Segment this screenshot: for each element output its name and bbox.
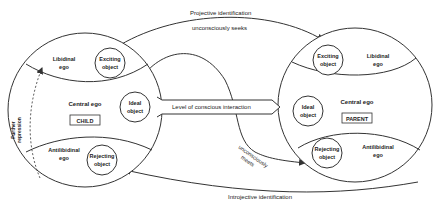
parent-rejecting-object	[312, 138, 342, 168]
conscious-interaction-label: Level of conscious interaction	[172, 104, 251, 110]
parent-rejecting-label: Rejecting	[315, 146, 340, 152]
parent-libidinal-ego-label: Libidinal	[367, 53, 390, 59]
child-exciting-object	[95, 48, 125, 78]
parent-libidinal-ego-label-2: ego	[373, 61, 383, 67]
child-libidinal-ego-label: Libidinal	[53, 56, 76, 62]
child-antilibidinal-label: Antilibidinal	[48, 147, 80, 153]
parent-ideal-label-2: object	[300, 112, 316, 118]
child-ideal-label: Ideal	[129, 100, 142, 106]
parent-antilibidinal-label-2: ego	[373, 152, 383, 158]
parent-exciting-label: Exciting	[317, 53, 338, 59]
further-repression-label-2: repression	[16, 117, 22, 143]
child-libidinal-ego-label-2: ego	[59, 64, 69, 70]
projective-identification-arrow	[120, 17, 323, 45]
parent-central-ego-label: Central ego	[340, 99, 373, 105]
child-exciting-label-2: object	[102, 64, 118, 70]
child-ideal-object	[120, 92, 150, 122]
child-antilibidinal-label-2: ego	[59, 155, 69, 161]
child-ideal-label-2: object	[127, 108, 143, 114]
object-relations-diagram: Projective identification unconsciously …	[0, 0, 437, 210]
parent-ideal-label: Ideal	[302, 104, 315, 110]
child-central-ego-label: Central ego	[68, 101, 101, 107]
parent-antilibidinal-label: Antilibidinal	[362, 144, 394, 150]
parent-rejecting-label-2: object	[319, 154, 335, 160]
parent-exciting-label-2: object	[320, 61, 336, 67]
child-label: CHILD	[77, 118, 94, 124]
projective-identification-label: Projective identification	[190, 10, 251, 16]
child-rejecting-object	[87, 145, 117, 175]
child-exciting-label: Exciting	[99, 56, 120, 62]
introjective-identification-label: Introjective identification	[228, 194, 292, 200]
child-rejecting-label: Rejecting	[90, 153, 115, 159]
parent-exciting-object	[313, 45, 343, 75]
parent-ideal-object	[293, 96, 323, 126]
child-rejecting-label-2: object	[94, 161, 110, 167]
parent-label: PARENT	[346, 116, 369, 122]
unconsciously-seeks-label: unconsciously seeks	[192, 25, 247, 31]
